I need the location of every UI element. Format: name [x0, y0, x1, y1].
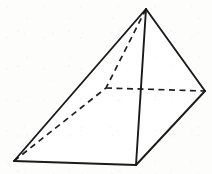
- front-right-face: [136, 9, 205, 165]
- face-group: [14, 9, 205, 165]
- pyramid-svg: [0, 0, 212, 174]
- pyramid-figure: [0, 0, 212, 174]
